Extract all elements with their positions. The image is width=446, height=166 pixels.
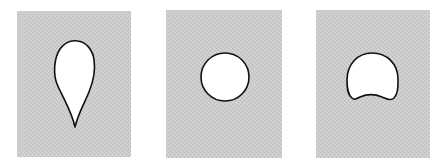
figure xyxy=(0,0,446,166)
dome-shape xyxy=(347,53,398,100)
panel-circle xyxy=(166,10,282,158)
panel-teardrop xyxy=(17,11,131,157)
circle-shape xyxy=(201,53,249,101)
panel-dome xyxy=(316,10,430,158)
